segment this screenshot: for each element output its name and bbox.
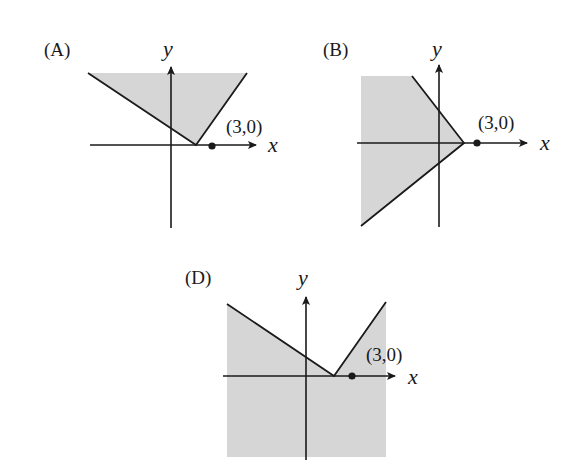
panel-a: (A) y x (3,0) <box>44 36 278 228</box>
y-axis-label-d: y <box>296 265 308 290</box>
shaded-region-b <box>361 76 464 226</box>
x-axis-label-a: x <box>267 132 278 157</box>
point-3-0-d <box>348 372 355 379</box>
point-3-0-a <box>208 142 215 149</box>
y-axis-label-a: y <box>161 36 173 61</box>
point-label-b: (3,0) <box>478 112 514 134</box>
panel-b: (B) y x (3,0) <box>323 36 550 227</box>
shaded-region-a <box>88 73 247 145</box>
x-axis-label-b: x <box>539 130 550 155</box>
point-label-a: (3,0) <box>226 116 262 138</box>
panel-label-b: (B) <box>323 39 348 61</box>
answer-choices-figure: (A) y x (3,0) (B) y x (3,0) (D) y x (3,0… <box>0 0 579 475</box>
point-3-0-b <box>473 139 480 146</box>
x-axis-label-d: x <box>407 364 418 389</box>
panel-label-a: (A) <box>44 39 70 61</box>
point-label-d: (3,0) <box>366 344 402 366</box>
panel-d: (D) y x (3,0) <box>185 265 418 460</box>
y-axis-label-b: y <box>430 36 442 61</box>
panel-label-d: (D) <box>185 267 211 289</box>
